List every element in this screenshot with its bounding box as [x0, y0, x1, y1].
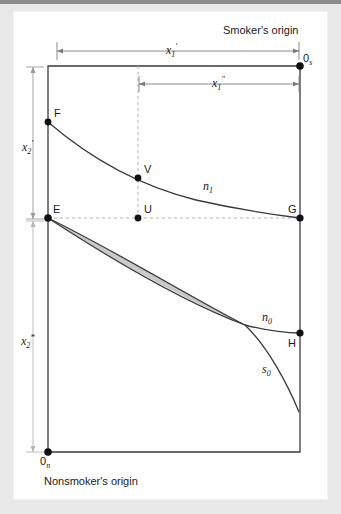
- label-x1-prime-mark: ′: [175, 41, 177, 51]
- curve-n1: [48, 122, 300, 218]
- origin-symbol-nonsmoker: 0n: [40, 456, 50, 470]
- label-x2-prime-sub: 2: [27, 147, 31, 156]
- point-label-E: E: [53, 204, 60, 215]
- point-H: [296, 329, 303, 336]
- curve-label-n0-sub: 0: [268, 317, 272, 326]
- label-x2-star-mark: *: [30, 332, 35, 342]
- origin-symbol-smoker: 0s: [303, 53, 312, 67]
- point-U: [135, 215, 142, 222]
- point-label-F: F: [54, 108, 61, 119]
- diagram-canvas: [0, 0, 341, 514]
- curve-label-n1: n1: [203, 180, 213, 195]
- curve-label-n0: n0: [262, 311, 272, 326]
- point-V: [135, 175, 142, 182]
- label-x2-star-sub: 2: [26, 341, 30, 350]
- guide-lines: [48, 66, 300, 218]
- label-x2-prime: x2′: [22, 139, 33, 156]
- label-x2-prime-mark: ′: [31, 138, 33, 148]
- smoker-origin-caption: Smoker's origin: [223, 25, 298, 36]
- label-x2-star: x2*: [21, 333, 35, 350]
- point-label-V: V: [144, 164, 151, 175]
- point-G: [296, 214, 303, 221]
- point-label-H: H: [288, 338, 296, 349]
- box-outline: [48, 66, 300, 452]
- origin-nonsmoker-subscript: n: [46, 461, 50, 470]
- label-x1-double-mark: ″: [221, 74, 225, 84]
- label-x1-prime: x1′: [166, 42, 177, 59]
- curve-label-s0-sub: 0: [267, 369, 271, 378]
- edgeworth-box: [48, 66, 300, 452]
- origin-smoker-subscript: s: [309, 58, 312, 67]
- point-E: [44, 214, 52, 222]
- label-x1-double-prime: x1″: [212, 75, 225, 92]
- label-x1-double-sub: 1: [217, 83, 221, 92]
- point-label-U: U: [144, 204, 152, 215]
- curve-label-s0: s0: [262, 363, 271, 378]
- point-markers: [44, 62, 304, 456]
- dimension-x1-prime: [57, 42, 299, 60]
- nonsmoker-origin-caption: Nonsmoker's origin: [44, 476, 138, 487]
- point-label-G: G: [288, 204, 297, 215]
- curve-label-n1-sub: 1: [209, 186, 213, 195]
- point-F: [45, 119, 52, 126]
- figure-root: Smoker's origin 0s Nonsmoker's origin 0n…: [0, 0, 341, 514]
- label-x1-prime-sub: 1: [171, 50, 175, 59]
